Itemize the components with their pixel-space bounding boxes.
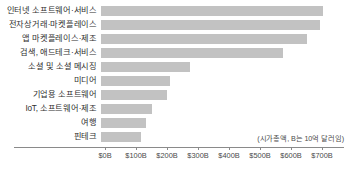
tick-mark xyxy=(198,147,199,150)
bar xyxy=(101,132,141,142)
bar-row: 인터넷 소프트웨어·서비스 xyxy=(0,4,352,18)
category-label: 핀테크 xyxy=(0,132,101,142)
tick-mark xyxy=(291,147,292,150)
bar xyxy=(101,6,323,16)
bar xyxy=(101,90,167,100)
tick-label: $200B xyxy=(156,151,177,160)
category-label: 앱 마켓플레이스·제조 xyxy=(0,34,101,44)
bar-track xyxy=(101,102,352,116)
category-label: 소셜 및 소셜 메시징 xyxy=(0,62,101,72)
bar-row: IoT, 소프트웨어·제조 xyxy=(0,102,352,116)
plot-area: 인터넷 소프트웨어·서비스전자상거래·마켓플레이스앱 마켓플레이스·제조검색, … xyxy=(0,0,352,148)
bar-rows: 인터넷 소프트웨어·서비스전자상거래·마켓플레이스앱 마켓플레이스·제조검색, … xyxy=(0,4,352,144)
tick-mark xyxy=(260,147,261,150)
tick-label: $700B xyxy=(311,151,332,160)
bar-track xyxy=(101,46,352,60)
bar-track xyxy=(101,4,352,18)
tick-mark xyxy=(167,147,168,150)
tick-label: $400B xyxy=(218,151,239,160)
bar-row: 전자상거래·마켓플레이스 xyxy=(0,18,352,32)
tick-label: $500B xyxy=(249,151,270,160)
category-label: 검색, 애드테크·서비스 xyxy=(0,48,101,58)
bar-row: 검색, 애드테크·서비스 xyxy=(0,46,352,60)
bar xyxy=(101,20,320,30)
bar xyxy=(101,48,283,58)
bar xyxy=(101,34,307,44)
bar-row: 소셜 및 소셜 메시징 xyxy=(0,60,352,74)
bar-chart: 인터넷 소프트웨어·서비스전자상거래·마켓플레이스앱 마켓플레이스·제조검색, … xyxy=(0,0,352,169)
category-label: IoT, 소프트웨어·제조 xyxy=(0,104,101,114)
tick-label: $600B xyxy=(280,151,301,160)
bar-track xyxy=(101,116,352,130)
bar xyxy=(101,104,152,114)
bar-track xyxy=(101,32,352,46)
bar-track xyxy=(101,88,352,102)
tick-mark xyxy=(105,147,106,150)
tick-label: $300B xyxy=(187,151,208,160)
bar-row: 미디어 xyxy=(0,74,352,88)
bar-row: 여행 xyxy=(0,116,352,130)
category-label: 기업용 소프트웨어 xyxy=(0,90,101,100)
bar xyxy=(101,76,170,86)
category-label: 미디어 xyxy=(0,76,101,86)
bar-track xyxy=(101,60,352,74)
x-axis-ticks: $0B$100B$200B$300B$400B$500B$600B$700B xyxy=(0,147,352,169)
tick-label: $100B xyxy=(125,151,146,160)
category-label: 인터넷 소프트웨어·서비스 xyxy=(0,6,101,16)
bar-track xyxy=(101,18,352,32)
bar-row: 앱 마켓플레이스·제조 xyxy=(0,32,352,46)
bar-track xyxy=(101,74,352,88)
tick-mark xyxy=(322,147,323,150)
tick-mark xyxy=(136,147,137,150)
tick-mark xyxy=(229,147,230,150)
bar-row: 기업용 소프트웨어 xyxy=(0,88,352,102)
bar xyxy=(101,118,146,128)
category-label: 여행 xyxy=(0,118,101,128)
bar xyxy=(101,62,190,72)
tick-label: $0B xyxy=(98,151,111,160)
category-label: 전자상거래·마켓플레이스 xyxy=(0,20,101,30)
chart-annotation: (시가총액, B는 10억 달러임) xyxy=(257,134,344,143)
